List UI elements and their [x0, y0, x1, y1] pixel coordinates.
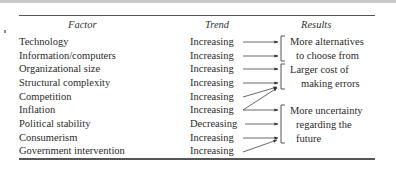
result-text: to choose from	[296, 49, 359, 63]
table-bottom-rule	[19, 158, 375, 160]
result-text: regarding the	[296, 118, 352, 132]
result-text: More alternatives	[290, 35, 364, 49]
result-text: Larger cost of	[290, 63, 349, 77]
result-text: making errors	[301, 77, 360, 91]
result-text: More uncertainty	[290, 104, 363, 118]
result-brackets	[281, 36, 285, 143]
result-text: future	[296, 132, 321, 146]
